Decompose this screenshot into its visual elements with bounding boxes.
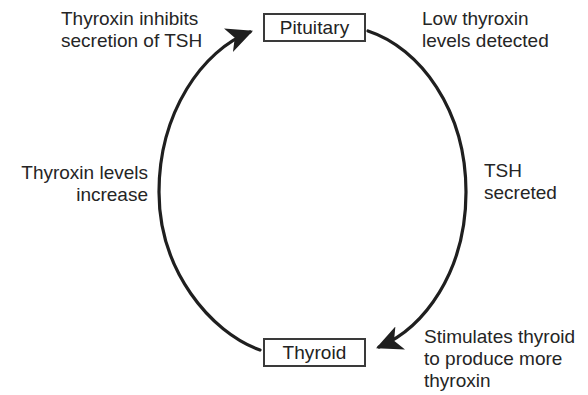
node-pituitary-label: Pituitary xyxy=(280,17,350,39)
thyroid-feedback-diagram: Pituitary Thyroid Thyroxin inhibits secr… xyxy=(0,0,588,395)
edge-label-stimulates-thyroid: Stimulates thyroid to produce more thyro… xyxy=(424,326,575,392)
arrow-thyroid-to-pituitary xyxy=(159,32,260,350)
edge-label-low-thyroxin-detected: Low thyroxin levels detected xyxy=(422,8,549,52)
node-thyroid-label: Thyroid xyxy=(282,342,346,364)
edge-label-thyroxin-inhibits-tsh: Thyroxin inhibits secretion of TSH xyxy=(61,8,202,52)
arrow-pituitary-to-thyroid xyxy=(368,31,466,347)
edge-label-tsh-secreted: TSH secreted xyxy=(484,160,557,204)
node-thyroid: Thyroid xyxy=(263,338,366,367)
edge-label-thyroxin-levels-increase: Thyroxin levels increase xyxy=(8,162,148,206)
node-pituitary: Pituitary xyxy=(263,13,366,42)
